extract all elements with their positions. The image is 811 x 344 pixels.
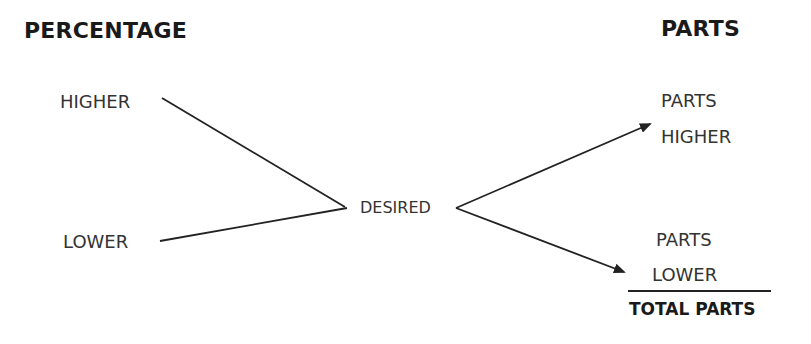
higher-to-desired-line [162,98,345,207]
desired-to-parts-higher-arrow [456,124,650,208]
desired-to-parts-lower-arrow [456,208,624,272]
diagram-lines [0,0,811,344]
lower-to-desired-line [160,208,347,241]
